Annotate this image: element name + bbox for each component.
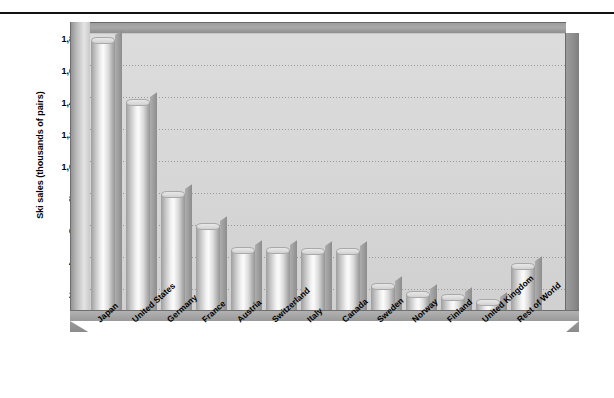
x-tick-label: Austria <box>235 297 263 324</box>
x-tick-label: Italy <box>305 306 324 325</box>
x-axis-category-labels: JapanUnited StatesGermanyFranceAustriaSw… <box>0 0 614 398</box>
x-tick-label: Canada <box>340 296 370 324</box>
x-tick-label: Japan <box>95 301 120 325</box>
x-tick-label: Finland <box>445 297 474 325</box>
x-tick-label: Germany <box>165 292 199 324</box>
ski-sales-bar-chart: Ski sales (thousands of pairs) 1,8001,60… <box>0 0 614 398</box>
x-tick-label: France <box>200 298 227 324</box>
x-tick-label: Norway <box>410 296 440 324</box>
x-tick-label: Sweden <box>375 296 406 325</box>
